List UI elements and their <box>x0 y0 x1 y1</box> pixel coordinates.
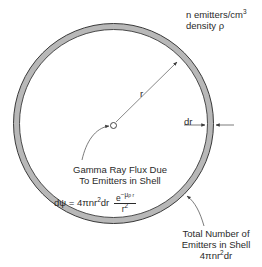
flux-label: Gamma Ray Flux Due To Emitters in Shell <box>60 164 180 186</box>
flux-line2: To Emitters in Shell <box>60 175 180 186</box>
shell-diagram <box>0 0 262 267</box>
formula-denominator: r2 <box>114 204 136 214</box>
flux-formula: dψ = 4πnr2dr e−μρ r r2 <box>54 193 136 214</box>
formula-lhs: dψ = 4πnr <box>54 197 97 208</box>
radius-label: r <box>140 88 143 99</box>
thickness-label: dr <box>184 116 192 127</box>
density-label: n emitters/cm3 density ρ <box>186 9 247 31</box>
radius-arrow <box>116 62 177 122</box>
formula-lhs-tail: dr <box>101 197 109 208</box>
total-line3: 4πnr2dr <box>174 250 258 261</box>
total-formula-tail: dr <box>224 250 232 261</box>
density-line1: n emitters/cm <box>186 9 243 20</box>
flux-line1: Gamma Ray Flux Due <box>60 164 180 175</box>
center-point <box>111 123 117 129</box>
total-emitters-label: Total Number of Emitters in Shell 4πnr2d… <box>174 228 258 261</box>
formula-fraction: e−μρ r r2 <box>114 193 136 214</box>
total-leader-arrow <box>187 196 204 226</box>
density-line2: density ρ <box>186 20 247 31</box>
numerator-exponent-sub: ρ r <box>128 192 134 198</box>
total-formula-base: 4πnr <box>200 250 220 261</box>
total-line2: Emitters in Shell <box>174 239 258 250</box>
denominator-exponent: 2 <box>125 202 129 209</box>
density-exponent: 3 <box>243 8 247 15</box>
total-line1: Total Number of <box>174 228 258 239</box>
flux-leader-arrow <box>82 126 109 160</box>
